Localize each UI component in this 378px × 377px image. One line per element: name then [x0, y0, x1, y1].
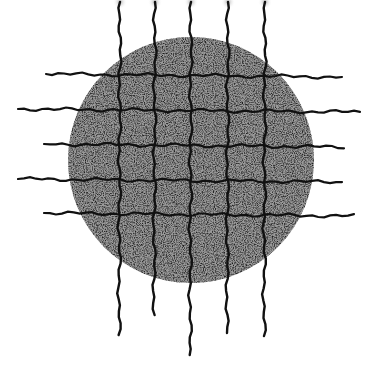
grid-circle-illustration [0, 0, 378, 377]
top-glow-dots [113, 0, 272, 9]
